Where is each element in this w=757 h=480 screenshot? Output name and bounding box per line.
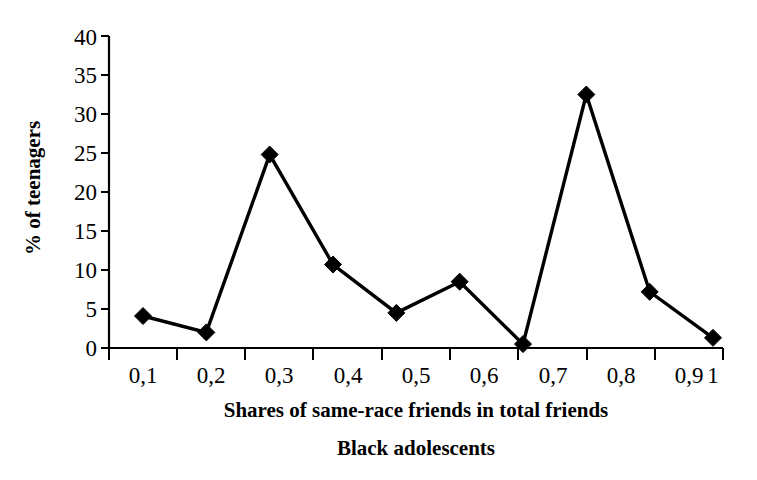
y-tick-marks bbox=[101, 36, 109, 348]
data-point-marker bbox=[198, 324, 215, 341]
x-tick-labels: 0,1 0,2 0,3 0,4 0,5 0,6 0,7 0,8 0,9 1 bbox=[129, 363, 719, 388]
y-tick-label: 10 bbox=[74, 258, 97, 283]
x-tick-label: 0,7 bbox=[539, 363, 568, 388]
x-tick-label: 1 bbox=[707, 363, 719, 388]
x-tick-label: 0,8 bbox=[607, 363, 636, 388]
chart-figure: % of teenagers 40 35 30 25 20 15 10 5 0 bbox=[0, 0, 757, 480]
y-tick-label: 5 bbox=[86, 297, 98, 322]
x-axis-title: Shares of same-race friends in total fri… bbox=[224, 398, 609, 422]
data-point-marker bbox=[135, 308, 152, 325]
y-tick-label: 0 bbox=[86, 336, 98, 361]
x-tick-label: 0,6 bbox=[470, 363, 499, 388]
y-tick-label: 20 bbox=[74, 180, 97, 205]
x-tick-label: 0,9 bbox=[675, 363, 704, 388]
series-markers bbox=[135, 86, 722, 353]
chart-caption: Black adolescents bbox=[337, 436, 495, 460]
data-point-marker bbox=[261, 146, 278, 163]
y-axis-title: % of teenagers bbox=[21, 121, 45, 255]
y-tick-label: 30 bbox=[74, 102, 97, 127]
series-line bbox=[143, 95, 713, 345]
x-tick-label: 0,2 bbox=[197, 363, 226, 388]
x-tick-marks bbox=[109, 348, 723, 360]
x-tick-label: 0,3 bbox=[265, 363, 294, 388]
y-tick-label: 35 bbox=[74, 63, 97, 88]
y-tick-label: 40 bbox=[74, 25, 97, 50]
x-tick-label: 0,4 bbox=[334, 363, 363, 388]
line-chart-svg: % of teenagers 40 35 30 25 20 15 10 5 0 bbox=[0, 0, 757, 480]
y-tick-label: 25 bbox=[74, 141, 97, 166]
x-tick-label: 0,5 bbox=[402, 363, 431, 388]
y-tick-label: 15 bbox=[74, 219, 97, 244]
data-point-marker bbox=[578, 86, 595, 103]
x-tick-label: 0,1 bbox=[129, 363, 158, 388]
y-tick-labels: 40 35 30 25 20 15 10 5 0 bbox=[74, 25, 97, 361]
